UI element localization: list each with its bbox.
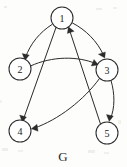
edge-3-to-4	[31, 79, 99, 132]
figure-caption: G	[58, 149, 67, 164]
edge-1-to-2	[22, 25, 52, 61]
edge-3-to-5	[106, 81, 114, 122]
node-2[interactable]: 2	[9, 58, 31, 80]
node-4[interactable]: 4	[9, 120, 31, 142]
node-1[interactable]: 1	[51, 7, 73, 29]
node-4-label: 4	[18, 126, 23, 137]
graph-figure: 1 2 3 4 5 G	[0, 0, 127, 167]
node-2-label: 2	[18, 64, 23, 75]
node-1-label: 1	[60, 13, 65, 24]
edge-2-to-3	[31, 58, 99, 66]
node-3-label: 3	[105, 65, 110, 76]
graph-canvas: 1 2 3 4 5 G	[0, 0, 127, 167]
node-5[interactable]: 5	[96, 122, 118, 144]
node-5-label: 5	[105, 128, 110, 139]
node-3[interactable]: 3	[96, 59, 118, 81]
